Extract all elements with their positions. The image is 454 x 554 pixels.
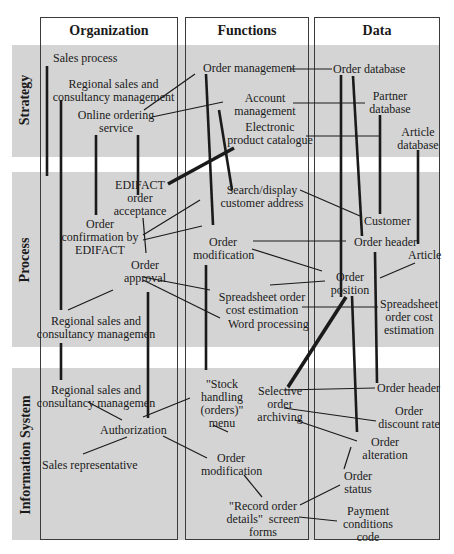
node-order-discount-rate: Order discount rate [375,405,443,431]
node-authorization: Authorization [100,424,164,437]
node-spreadsheet-cost-estimation-data: Spreadsheet order cost estimation [376,298,442,337]
node-regional-sales-is: Regional sales and consultancy managemen [36,384,156,410]
node-order-status: Order status [336,470,380,496]
node-order-position: Order position [327,271,373,297]
node-order-confirmation-edifact: Order confirmation by EDIFACT [60,218,140,257]
node-article-database: Article database [393,126,443,152]
node-order-header-is: Order header [377,382,440,395]
node-order-database: Order database [333,63,405,76]
node-sales-process: Sales process [53,52,117,65]
node-account-management: Account management [230,92,300,118]
node-regional-sales-strategy: Regional sales and consultancy managemen… [51,78,176,104]
node-selective-order-archiving: Selective order archiving [250,385,310,424]
node-sales-representative: Sales representative [42,459,138,472]
node-edifact-order-acceptance: EDIFACT order acceptance [112,179,168,218]
node-regional-sales-process: Regional sales and consultancy managemen [36,315,156,341]
node-word-processing: Word processing [228,318,309,331]
node-record-order-details-forms: "Record order details" screen forms [223,500,303,539]
node-order-alteration: Order alteration [355,436,415,462]
node-customer: Customer [364,215,411,228]
node-electronic-product-catalogue: Electronic product catalogue [226,121,314,147]
node-order-approval: Order approval [115,259,175,285]
node-partner-database: Partner database [365,90,415,116]
node-order-modification-process: Order modification [193,236,253,262]
node-online-ordering-service: Online ordering service [76,109,156,135]
node-spreadsheet-cost-estimation-fn: Spreadsheet order cost estimation [216,291,308,317]
node-search-display-customer: Search/display customer address [220,184,304,210]
node-article: Article [408,249,441,262]
node-order-management: Order management [203,62,295,75]
node-order-modification-is: Order modification [201,452,261,478]
node-stock-handling-menu: "Stock handling (orders)" menu [194,378,250,430]
node-payment-conditions-code: Payment conditions code [336,505,400,544]
